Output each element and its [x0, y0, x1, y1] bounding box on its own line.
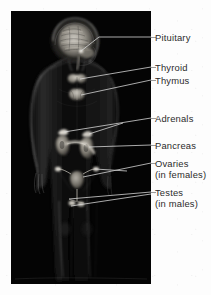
label-pituitary: Pituitary — [155, 32, 191, 43]
label-ovaries: Ovaries (in females) — [155, 158, 206, 181]
anatomy-panel — [11, 11, 151, 284]
label-thyroid-text: Thyroid — [155, 62, 188, 73]
label-pituitary-text: Pituitary — [155, 32, 191, 43]
label-testes-text: Testes — [155, 187, 183, 198]
label-thymus: Thymus — [155, 75, 189, 86]
label-adrenals: Adrenals — [155, 113, 194, 124]
label-column: Pituitary Thyroid Thymus Adrenals Pancre… — [155, 0, 211, 295]
label-ovaries-subtext: (in females) — [155, 169, 206, 180]
label-thymus-text: Thymus — [155, 75, 189, 86]
label-adrenals-text: Adrenals — [155, 113, 194, 124]
endocrine-figure: Pituitary Thyroid Thymus Adrenals Pancre… — [0, 0, 211, 295]
label-pancreas-text: Pancreas — [155, 140, 196, 151]
ovary-left — [55, 167, 61, 172]
label-thyroid: Thyroid — [155, 62, 188, 73]
label-pancreas: Pancreas — [155, 140, 196, 151]
label-ovaries-text: Ovaries — [155, 158, 189, 169]
anatomy-illustration — [11, 11, 151, 284]
label-testes-subtext: (in males) — [155, 198, 198, 209]
label-testes: Testes (in males) — [155, 187, 198, 210]
